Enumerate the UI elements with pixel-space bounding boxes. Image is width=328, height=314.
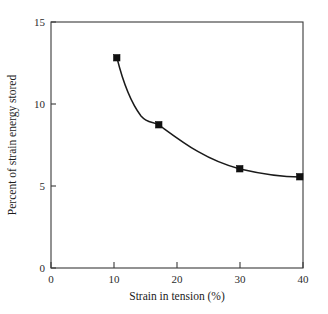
x-axis-label: Strain in tension (%)	[129, 290, 225, 303]
x-tick-label-20: 20	[172, 273, 184, 285]
y-tick-label-10: 10	[34, 98, 46, 110]
data-point-4	[297, 174, 304, 181]
x-tick-label-40: 40	[298, 273, 310, 285]
x-tick-label-30: 30	[235, 273, 247, 285]
data-point-3	[237, 166, 244, 173]
data-point-2	[156, 122, 163, 129]
y-tick-label-15: 15	[34, 16, 46, 28]
x-tick-label-10: 10	[109, 273, 121, 285]
y-tick-label-5: 5	[40, 180, 46, 192]
y-axis-label: Percent of strain energy stored	[6, 75, 19, 216]
y-tick-label-0: 0	[40, 262, 46, 274]
chart-figure: 15 10 5 0 0 10 20 30 40	[0, 0, 328, 314]
data-point-1	[114, 55, 121, 62]
x-tick-label-0: 0	[48, 273, 54, 285]
chart-background	[0, 0, 328, 314]
line-chart: 15 10 5 0 0 10 20 30 40	[0, 0, 328, 314]
